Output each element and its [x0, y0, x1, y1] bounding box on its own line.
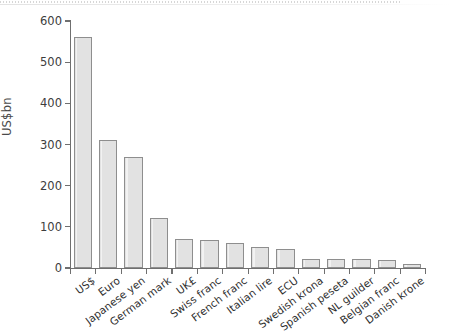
x-axis-tick-mark [171, 269, 172, 274]
bar [99, 140, 117, 268]
x-axis-tick-mark [400, 269, 401, 274]
y-axis-tick-label: 100 [22, 220, 62, 234]
x-axis-tick-mark [324, 269, 325, 274]
x-axis-tick-mark [273, 269, 274, 274]
bar [74, 37, 92, 268]
x-axis-tick-mark [95, 269, 96, 274]
x-axis-tick-mark [70, 269, 71, 274]
bar [327, 259, 345, 268]
y-axis-line [70, 20, 71, 269]
y-axis-tick-mark [65, 20, 70, 21]
y-axis-tick-label: 300 [22, 138, 62, 152]
x-axis-tick-mark [374, 269, 375, 274]
x-axis-tick-mark [425, 269, 426, 274]
y-axis-tick-label: 400 [22, 96, 62, 110]
y-axis-tick-mark [65, 185, 70, 186]
bar [352, 259, 370, 268]
bar [378, 260, 396, 268]
bar [175, 239, 193, 268]
y-axis-tick-label: 500 [22, 55, 62, 69]
y-axis-tick-label: 0 [22, 261, 62, 275]
bar-chart-figure: US$bn 0100200300400500600 US$EuroJapanes… [0, 0, 450, 331]
x-axis-tick-mark [248, 269, 249, 274]
bar [124, 157, 142, 268]
x-axis-tick-mark [298, 269, 299, 274]
x-axis-tick-mark [222, 269, 223, 274]
y-axis-title: US$bn [0, 66, 18, 136]
y-axis-tick-label: 200 [22, 179, 62, 193]
bar [251, 247, 269, 268]
bar [403, 264, 421, 268]
x-axis-tick-mark [197, 269, 198, 274]
bar [200, 240, 218, 268]
x-axis-tick-mark [146, 269, 147, 274]
bar [302, 259, 320, 268]
y-axis-tick-mark [65, 144, 70, 145]
scan-artifact-line [0, 1, 400, 3]
y-axis-tick-label: 600 [22, 14, 62, 28]
x-axis-tick-label: US$ [73, 274, 97, 296]
scan-artifact-line-secondary [0, 4, 450, 5]
x-axis-tick-mark [121, 269, 122, 274]
bar [276, 249, 294, 268]
y-axis-tick-mark [65, 226, 70, 227]
y-axis-tick-mark [65, 103, 70, 104]
x-axis-tick-mark [349, 269, 350, 274]
bar [226, 243, 244, 268]
y-axis-tick-mark [65, 62, 70, 63]
bar [150, 218, 168, 268]
